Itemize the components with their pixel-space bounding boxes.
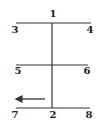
- point-label-6: 6: [84, 66, 91, 76]
- point-label-7: 7: [12, 110, 19, 120]
- point-label-8: 8: [86, 110, 93, 120]
- point-label-3: 3: [12, 25, 19, 35]
- diagram-lines: [16, 23, 91, 108]
- point-label-4: 4: [87, 25, 94, 35]
- point-label-1: 1: [50, 9, 57, 19]
- point-label-2: 2: [50, 110, 57, 120]
- point-label-5: 5: [15, 66, 22, 76]
